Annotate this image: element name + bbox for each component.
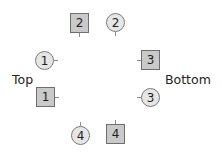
connector-tick [137,97,141,98]
circle-node-3: 3 [141,88,160,107]
connector-tick [115,120,116,124]
node-number: 4 [77,129,85,143]
connector-tick [54,60,58,61]
circle-node-2: 2 [106,13,125,32]
bottom-label: Bottom [165,74,211,87]
connector-tick [137,60,141,61]
node-number: 2 [76,16,84,30]
square-node-4: 4 [106,124,125,144]
connector-tick [55,97,59,98]
top-label: Top [12,74,33,87]
circle-node-4: 4 [71,126,90,145]
connector-tick [79,33,80,37]
connector-tick [80,122,81,126]
node-number: 4 [112,127,120,141]
node-number: 3 [147,91,155,105]
connector-tick [115,32,116,36]
square-node-3: 3 [141,50,160,70]
square-node-1: 1 [36,87,55,107]
node-number: 1 [42,90,50,104]
circle-node-1: 1 [35,51,54,70]
node-number: 2 [112,16,120,30]
square-node-2: 2 [70,13,89,33]
node-number: 1 [41,54,49,68]
node-number: 3 [147,53,155,67]
